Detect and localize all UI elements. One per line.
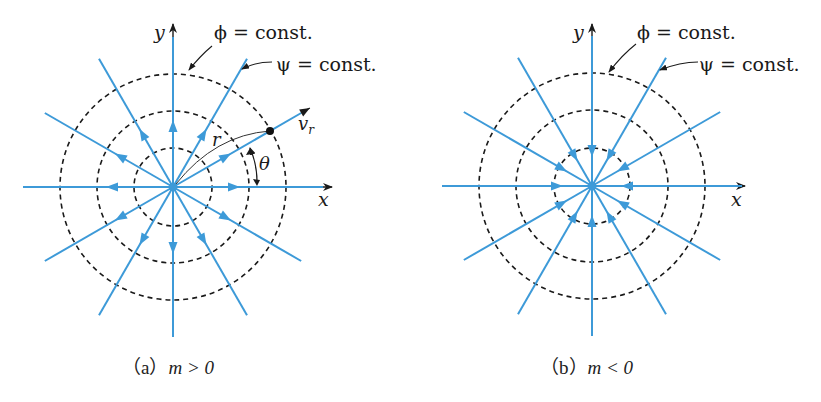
panel-b-sink-flow: y x ϕ = const. ψ = const. bbox=[442, 21, 800, 336]
streamline-ray bbox=[173, 113, 301, 187]
streamlines bbox=[23, 37, 323, 337]
phi-const-label: ϕ = const. bbox=[637, 21, 736, 43]
flow-arrow-icon bbox=[588, 145, 597, 157]
flow-arrow-icon bbox=[568, 211, 578, 224]
flow-arrow-icon bbox=[551, 182, 563, 191]
theta-label: θ bbox=[259, 153, 270, 174]
streamline-ray bbox=[45, 113, 173, 187]
streamline-ray bbox=[173, 187, 301, 261]
diagram-canvas: y x ϕ = const. ψ = const. r θ vr y x ϕ =… bbox=[0, 0, 821, 402]
streamline-ray bbox=[99, 187, 173, 315]
streamline-ray bbox=[464, 112, 592, 186]
caption-b: （b）m < 0 bbox=[540, 352, 633, 379]
streamline-ray bbox=[464, 186, 592, 260]
streamlines bbox=[442, 36, 742, 336]
origin-point bbox=[588, 182, 596, 190]
theta-arrowhead-bottom bbox=[253, 179, 260, 186]
phi-leader bbox=[189, 46, 212, 70]
flow-arrow-icon bbox=[617, 201, 630, 211]
phi-leader bbox=[609, 44, 636, 72]
flow-arrow-icon bbox=[140, 232, 150, 245]
flow-arrow-icon bbox=[197, 232, 207, 245]
y-axis-label: y bbox=[153, 21, 165, 43]
streamline-ray bbox=[173, 59, 247, 187]
psi-leader bbox=[660, 62, 698, 70]
caption-a: （a）m > 0 bbox=[122, 352, 214, 379]
flow-arrow-icon bbox=[228, 183, 240, 192]
flow-arrow-icon bbox=[115, 154, 128, 164]
point-marker bbox=[266, 127, 274, 135]
flow-arrow-icon bbox=[617, 162, 630, 172]
phi-const-label: ϕ = const. bbox=[214, 21, 313, 43]
streamline-ray bbox=[518, 58, 592, 186]
panel-a-source-flow: y x ϕ = const. ψ = const. r θ vr bbox=[23, 21, 377, 337]
streamline-ray bbox=[592, 58, 666, 186]
psi-const-label: ψ = const. bbox=[276, 53, 377, 75]
psi-const-label: ψ = const. bbox=[699, 53, 800, 75]
streamline-ray bbox=[592, 112, 720, 186]
streamline-ray bbox=[592, 186, 720, 260]
flow-arrow-icon bbox=[607, 211, 617, 224]
flow-arrow-icon bbox=[554, 162, 567, 172]
streamline-ray bbox=[518, 186, 592, 314]
flow-arrow-icon bbox=[140, 129, 150, 142]
flow-arrow-icon bbox=[218, 154, 231, 164]
flow-arrow-icon bbox=[169, 120, 178, 132]
flow-arrow-icon bbox=[218, 211, 231, 221]
flow-arrow-icon bbox=[115, 211, 128, 221]
flow-arrow-icon bbox=[568, 148, 578, 161]
origin-point bbox=[169, 183, 177, 191]
vr-label: vr bbox=[298, 113, 315, 137]
streamline-ray bbox=[45, 187, 173, 261]
flow-arrow-icon bbox=[554, 201, 567, 211]
streamline-ray bbox=[592, 186, 666, 314]
streamline-ray bbox=[99, 59, 173, 187]
r-label: r bbox=[212, 129, 222, 150]
x-axis-label: x bbox=[731, 188, 742, 210]
flow-arrow-icon bbox=[106, 183, 118, 192]
flow-arrow-icon bbox=[588, 215, 597, 227]
flow-arrow-icon bbox=[197, 129, 207, 142]
flow-arrow-icon bbox=[169, 242, 178, 254]
streamline-ray bbox=[173, 187, 247, 315]
flow-arrow-icon bbox=[607, 148, 617, 161]
psi-leader bbox=[242, 62, 272, 69]
y-axis-label: y bbox=[572, 21, 584, 43]
x-axis-label: x bbox=[318, 188, 329, 210]
flow-arrow-icon bbox=[621, 182, 633, 191]
